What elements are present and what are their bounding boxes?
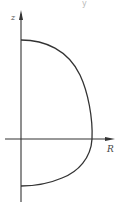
diagram-canvas: y z R <box>0 0 122 210</box>
z-axis-arrow-icon <box>19 10 23 20</box>
profile-curve <box>21 40 92 186</box>
z-axis-label: z <box>10 13 16 22</box>
r-axis-label: R <box>106 144 114 154</box>
profile-diagram: y z R <box>0 0 122 210</box>
cropped-text-fragment: y <box>82 0 87 8</box>
r-axis-arrow-icon <box>105 137 115 141</box>
